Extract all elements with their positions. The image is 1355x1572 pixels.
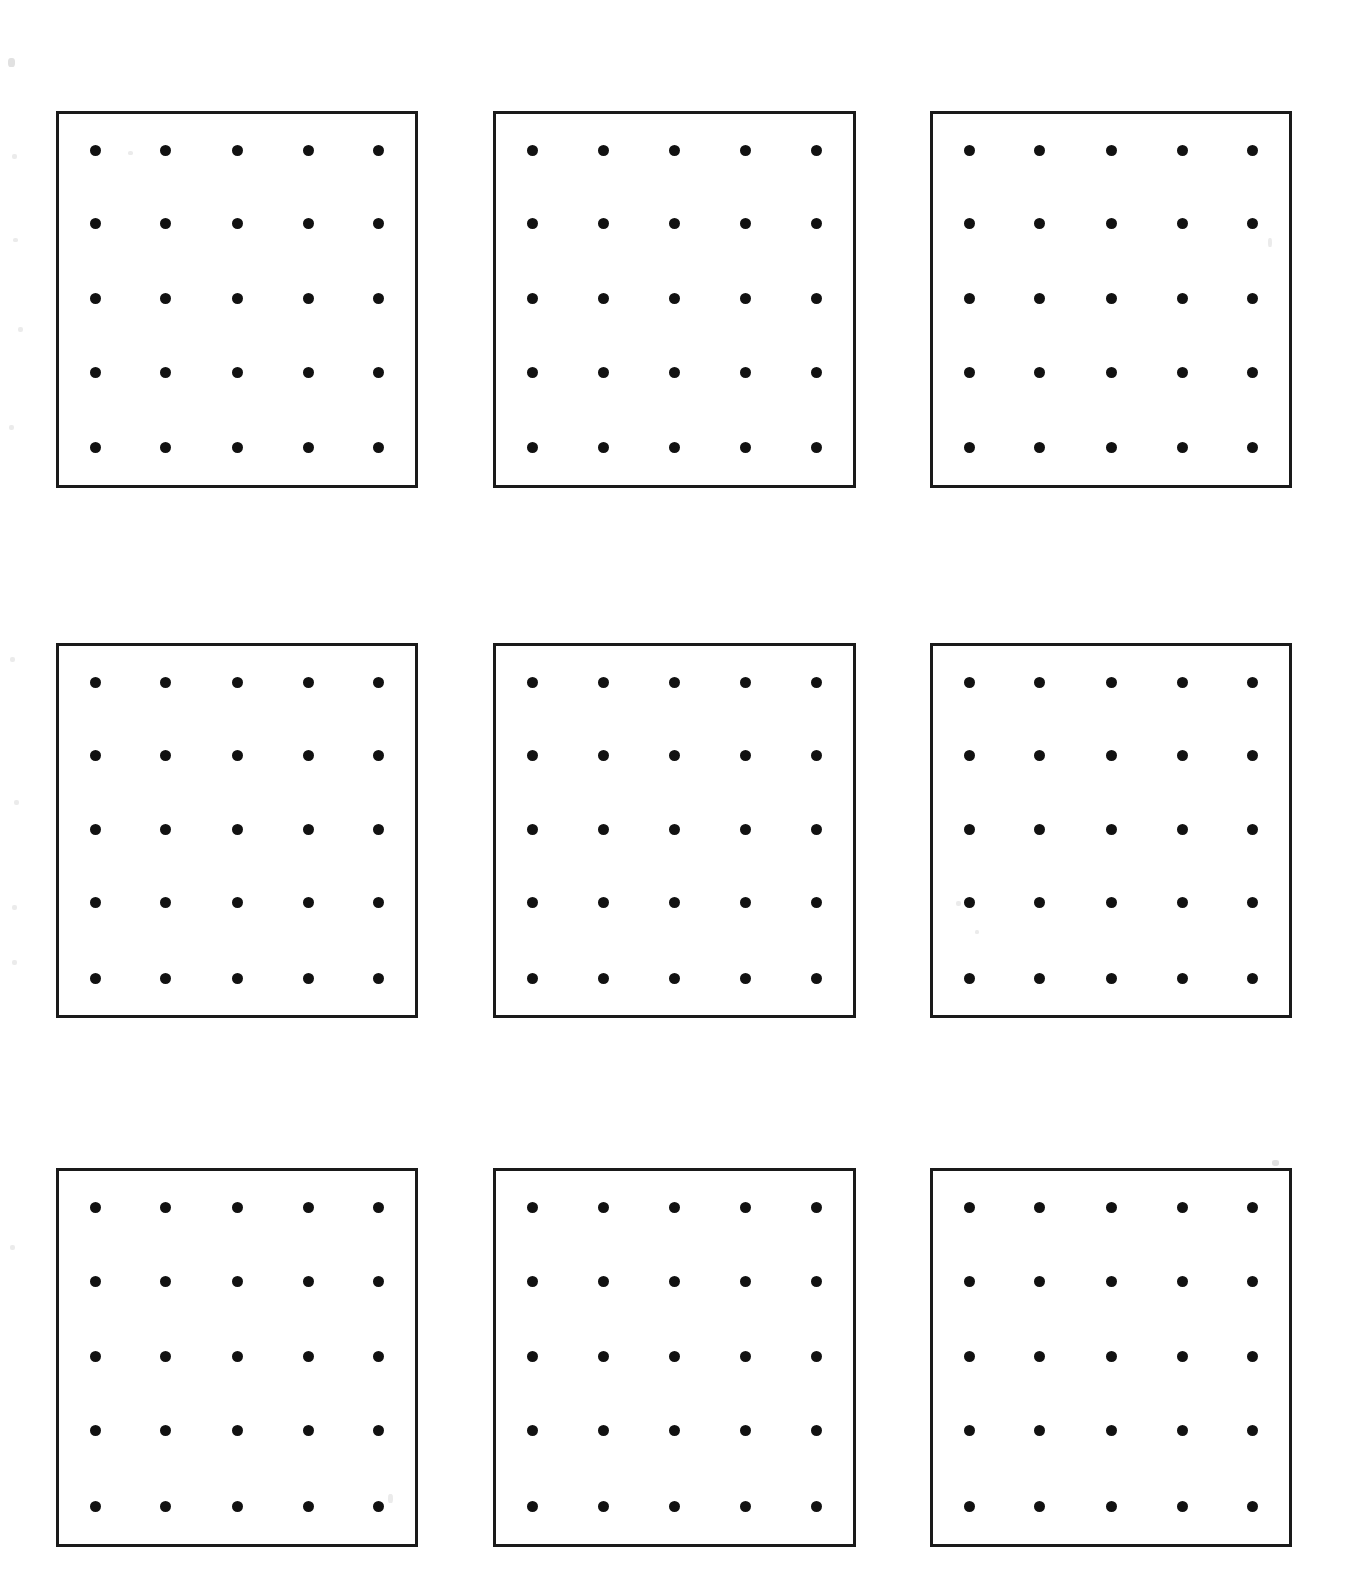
grid-dot[interactable]	[373, 677, 384, 688]
grid-dot[interactable]	[811, 824, 822, 835]
grid-dot[interactable]	[669, 1351, 680, 1362]
grid-dot[interactable]	[373, 1351, 384, 1362]
grid-dot[interactable]	[1106, 1425, 1117, 1436]
grid-dot[interactable]	[303, 824, 314, 835]
grid-dot[interactable]	[527, 677, 538, 688]
grid-dot[interactable]	[160, 824, 171, 835]
grid-dot[interactable]	[1034, 1425, 1045, 1436]
grid-dot[interactable]	[90, 1351, 101, 1362]
grid-dot[interactable]	[1247, 367, 1258, 378]
grid-dot[interactable]	[669, 897, 680, 908]
grid-dot[interactable]	[1106, 973, 1117, 984]
grid-dot[interactable]	[598, 442, 609, 453]
grid-dot[interactable]	[527, 442, 538, 453]
grid-dot[interactable]	[160, 1276, 171, 1287]
grid-dot[interactable]	[669, 145, 680, 156]
grid-dot[interactable]	[740, 677, 751, 688]
grid-dot[interactable]	[1247, 897, 1258, 908]
grid-dot[interactable]	[811, 367, 822, 378]
grid-dot[interactable]	[1106, 293, 1117, 304]
grid-dot[interactable]	[232, 824, 243, 835]
grid-dot[interactable]	[964, 824, 975, 835]
grid-dot[interactable]	[964, 973, 975, 984]
grid-dot[interactable]	[527, 145, 538, 156]
grid-dot[interactable]	[1177, 1351, 1188, 1362]
grid-dot[interactable]	[527, 1425, 538, 1436]
dot-grid-panel-7[interactable]	[56, 1168, 418, 1547]
grid-dot[interactable]	[811, 973, 822, 984]
grid-dot[interactable]	[740, 897, 751, 908]
grid-dot[interactable]	[740, 824, 751, 835]
grid-dot[interactable]	[1247, 1501, 1258, 1512]
grid-dot[interactable]	[90, 367, 101, 378]
grid-dot[interactable]	[1247, 750, 1258, 761]
dot-grid-panel-3[interactable]	[930, 111, 1292, 488]
grid-dot[interactable]	[527, 973, 538, 984]
grid-dot[interactable]	[598, 824, 609, 835]
grid-dot[interactable]	[740, 145, 751, 156]
grid-dot[interactable]	[232, 367, 243, 378]
grid-dot[interactable]	[160, 973, 171, 984]
grid-dot[interactable]	[1247, 1425, 1258, 1436]
grid-dot[interactable]	[964, 677, 975, 688]
grid-dot[interactable]	[1034, 677, 1045, 688]
grid-dot[interactable]	[232, 1276, 243, 1287]
grid-dot[interactable]	[1034, 442, 1045, 453]
grid-dot[interactable]	[373, 1276, 384, 1287]
grid-dot[interactable]	[1247, 973, 1258, 984]
grid-dot[interactable]	[1106, 897, 1117, 908]
grid-dot[interactable]	[90, 897, 101, 908]
grid-dot[interactable]	[1106, 1202, 1117, 1213]
grid-dot[interactable]	[964, 1425, 975, 1436]
grid-dot[interactable]	[811, 218, 822, 229]
grid-dot[interactable]	[90, 677, 101, 688]
grid-dot[interactable]	[1034, 1202, 1045, 1213]
grid-dot[interactable]	[1106, 442, 1117, 453]
grid-dot[interactable]	[373, 145, 384, 156]
grid-dot[interactable]	[160, 367, 171, 378]
grid-dot[interactable]	[964, 218, 975, 229]
grid-dot[interactable]	[232, 1501, 243, 1512]
grid-dot[interactable]	[1247, 145, 1258, 156]
grid-dot[interactable]	[598, 367, 609, 378]
grid-dot[interactable]	[964, 1351, 975, 1362]
grid-dot[interactable]	[373, 824, 384, 835]
grid-dot[interactable]	[527, 367, 538, 378]
grid-dot[interactable]	[1106, 145, 1117, 156]
grid-dot[interactable]	[740, 1202, 751, 1213]
grid-dot[interactable]	[232, 677, 243, 688]
grid-dot[interactable]	[1247, 677, 1258, 688]
grid-dot[interactable]	[598, 1202, 609, 1213]
grid-dot[interactable]	[160, 750, 171, 761]
grid-dot[interactable]	[1106, 750, 1117, 761]
grid-dot[interactable]	[373, 973, 384, 984]
grid-dot[interactable]	[527, 824, 538, 835]
grid-dot[interactable]	[811, 145, 822, 156]
grid-dot[interactable]	[740, 750, 751, 761]
grid-dot[interactable]	[740, 1425, 751, 1436]
grid-dot[interactable]	[1034, 750, 1045, 761]
grid-dot[interactable]	[303, 145, 314, 156]
grid-dot[interactable]	[527, 1202, 538, 1213]
grid-dot[interactable]	[669, 1501, 680, 1512]
grid-dot[interactable]	[160, 1501, 171, 1512]
grid-dot[interactable]	[1177, 367, 1188, 378]
grid-dot[interactable]	[232, 1425, 243, 1436]
grid-dot[interactable]	[1177, 1202, 1188, 1213]
grid-dot[interactable]	[232, 218, 243, 229]
grid-dot[interactable]	[811, 293, 822, 304]
grid-dot[interactable]	[303, 677, 314, 688]
grid-dot[interactable]	[1034, 897, 1045, 908]
grid-dot[interactable]	[303, 367, 314, 378]
grid-dot[interactable]	[527, 1501, 538, 1512]
grid-dot[interactable]	[527, 1276, 538, 1287]
grid-dot[interactable]	[160, 442, 171, 453]
grid-dot[interactable]	[811, 1501, 822, 1512]
grid-dot[interactable]	[303, 750, 314, 761]
dot-grid-panel-8[interactable]	[493, 1168, 856, 1547]
grid-dot[interactable]	[303, 218, 314, 229]
grid-dot[interactable]	[303, 1351, 314, 1362]
grid-dot[interactable]	[964, 1276, 975, 1287]
grid-dot[interactable]	[598, 1276, 609, 1287]
grid-dot[interactable]	[1177, 1501, 1188, 1512]
